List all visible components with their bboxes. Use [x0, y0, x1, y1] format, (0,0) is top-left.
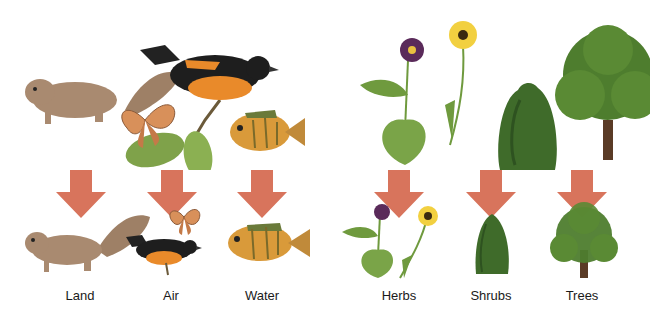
label-herbs: Herbs [359, 288, 439, 303]
label-shrubs: Shrubs [451, 288, 531, 303]
shrubs-shrub [472, 212, 512, 276]
bird-icon [126, 235, 202, 275]
fish-icon [230, 110, 305, 151]
butterfly-icon [170, 209, 200, 235]
label-land: Land [40, 288, 120, 303]
label-air: Air [131, 288, 211, 303]
water-fish [222, 215, 312, 270]
daisy-icon [400, 206, 438, 278]
shrub-icon [498, 83, 557, 170]
label-trees: Trees [542, 288, 622, 303]
violet-icon [360, 38, 426, 165]
arrow-down-shrubs [466, 170, 516, 218]
daisy-icon [445, 21, 477, 145]
air-bird-butterfly [124, 205, 204, 280]
trees-tree [548, 200, 620, 280]
tree-icon [555, 25, 650, 160]
arrow-down-water [237, 170, 287, 218]
animals-illustration [15, 20, 315, 170]
herbs-violet-daisy [342, 200, 442, 280]
violet-icon [342, 204, 393, 278]
plants-illustration [360, 20, 650, 170]
label-water: Water [222, 288, 302, 303]
